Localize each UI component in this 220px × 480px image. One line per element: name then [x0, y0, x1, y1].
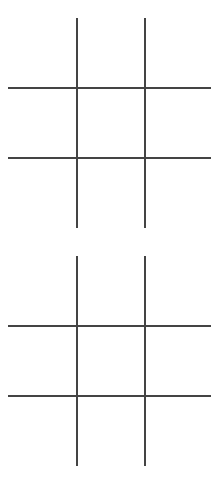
board-cell[interactable] [8, 256, 76, 325]
board-cell[interactable] [78, 89, 144, 157]
board-cell[interactable] [8, 89, 76, 157]
board-cell[interactable] [78, 327, 144, 395]
tic-tac-toe-board-2 [0, 238, 220, 478]
board-cell[interactable] [146, 327, 211, 395]
board-cell[interactable] [78, 397, 144, 466]
board-cell[interactable] [146, 397, 211, 466]
board-cell[interactable] [78, 18, 144, 87]
board-cell[interactable] [146, 89, 211, 157]
board-cell[interactable] [78, 159, 144, 228]
board-cell[interactable] [8, 327, 76, 395]
board-cell[interactable] [8, 159, 76, 228]
board-cell[interactable] [146, 18, 211, 87]
board-cell[interactable] [8, 397, 76, 466]
board-cell[interactable] [78, 256, 144, 325]
board-cell[interactable] [8, 18, 76, 87]
board-cell[interactable] [146, 159, 211, 228]
tic-tac-toe-board-1 [0, 0, 220, 240]
board-cell[interactable] [146, 256, 211, 325]
